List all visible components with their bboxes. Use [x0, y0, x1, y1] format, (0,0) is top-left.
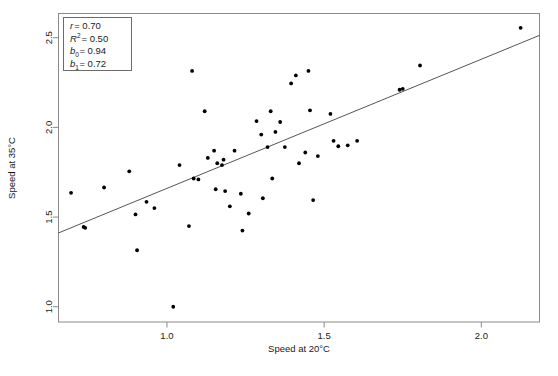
data-point: [135, 248, 139, 252]
regression-line: [59, 35, 540, 233]
data-point: [311, 198, 315, 202]
data-point: [102, 186, 106, 190]
data-point: [212, 149, 216, 153]
data-point: [228, 204, 232, 208]
data-point: [203, 109, 207, 113]
stat-intercept-value: = 0.94: [79, 45, 106, 56]
x-tick-label: 1.0: [160, 330, 173, 341]
data-point: [332, 139, 336, 143]
stat-r-squared-value: = 0.50: [82, 33, 109, 44]
data-point: [206, 156, 210, 160]
stat-r-squared-exponent: 2: [77, 32, 81, 39]
data-point: [283, 145, 287, 149]
x-axis-title: Speed at 20°C: [268, 343, 330, 354]
data-point: [289, 82, 293, 86]
data-point: [190, 69, 194, 73]
data-point: [127, 169, 131, 173]
statistics-box: r= 0.70 R2= 0.50 b0= 0.94 b1= 0.72: [64, 18, 132, 71]
data-point: [145, 200, 149, 204]
data-point: [346, 143, 350, 147]
data-point: [247, 212, 251, 216]
data-point: [297, 161, 301, 165]
x-axis-ticks: 1.01.52.0: [160, 322, 488, 341]
data-point: [418, 64, 422, 68]
regression-line-segment: [59, 35, 540, 233]
stat-slope-value: = 0.72: [79, 58, 106, 69]
data-point: [187, 224, 191, 228]
data-point: [239, 192, 243, 196]
data-point: [401, 87, 405, 91]
plot-frame: [59, 14, 540, 323]
data-point: [278, 120, 282, 124]
data-point: [192, 177, 196, 181]
data-point: [336, 144, 340, 148]
y-tick-label: 1.5: [43, 210, 54, 223]
data-point: [316, 154, 320, 158]
stat-slope: b1= 0.72: [70, 58, 106, 71]
data-point: [307, 69, 311, 73]
y-axis-ticks: 1.01.52.02.5: [43, 31, 59, 313]
plot-border: [59, 14, 540, 323]
data-point: [69, 191, 73, 195]
data-point: [241, 229, 245, 233]
data-point: [171, 305, 175, 309]
x-tick-label: 1.5: [318, 330, 331, 341]
data-point: [233, 149, 237, 153]
data-point: [215, 161, 219, 165]
data-point: [134, 212, 138, 216]
scatter-plot-figure: 1.01.52.0 1.01.52.02.5 Speed at 20°C Spe…: [0, 0, 558, 376]
data-point: [303, 151, 307, 155]
data-point: [269, 109, 273, 113]
x-tick-label: 2.0: [475, 330, 488, 341]
chart-canvas: 1.01.52.0 1.01.52.02.5 Speed at 20°C Spe…: [0, 0, 558, 376]
data-point: [270, 177, 274, 181]
y-tick-label: 2.5: [43, 31, 54, 44]
stat-correlation: r= 0.70: [70, 20, 101, 31]
data-point: [255, 119, 259, 123]
data-point: [83, 226, 87, 230]
data-point: [152, 206, 156, 210]
data-point: [266, 145, 270, 149]
data-point: [355, 139, 359, 143]
data-point: [329, 112, 333, 116]
data-point: [259, 133, 263, 137]
data-point: [519, 26, 523, 30]
data-point: [308, 108, 312, 112]
data-point: [261, 196, 265, 200]
data-point: [223, 189, 227, 193]
data-points: [69, 26, 522, 309]
data-point: [294, 73, 298, 77]
stat-intercept: b0= 0.94: [70, 45, 106, 58]
data-point: [274, 130, 278, 134]
data-point: [196, 178, 200, 182]
data-point: [222, 158, 226, 162]
y-axis-title: Speed at 35°C: [6, 137, 17, 199]
data-point: [178, 163, 182, 167]
y-tick-label: 1.0: [43, 300, 54, 313]
data-point: [214, 187, 218, 191]
y-tick-label: 2.0: [43, 121, 54, 134]
stat-correlation-value: = 0.70: [74, 20, 101, 31]
stat-r-squared: R2= 0.50: [70, 32, 108, 44]
data-point: [220, 163, 224, 167]
